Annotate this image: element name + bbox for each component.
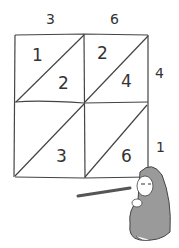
cell-tens-r0c1: 2 [97,45,108,62]
diagonal [85,105,147,177]
cell-ones-r1c0: 3 [56,148,67,165]
multiplicand-digit-1: 3 [46,12,55,26]
lattice-grid [0,0,179,248]
diagonal [85,36,148,102]
multiplier-digit-1: 4 [155,66,164,80]
hand [132,199,142,207]
face [137,176,153,196]
pointer-stick [78,188,130,196]
cell-tens-r0c0: 1 [32,47,43,64]
cell-ones-r0c1: 4 [121,73,132,90]
diagonal [15,104,84,176]
multiplicand-digit-2: 6 [110,12,119,26]
cell-ones-r1c1: 6 [121,148,132,165]
diagonal [16,35,84,102]
multiplier-digit-2: 1 [156,140,165,154]
cell-ones-r0c0: 2 [58,75,69,92]
